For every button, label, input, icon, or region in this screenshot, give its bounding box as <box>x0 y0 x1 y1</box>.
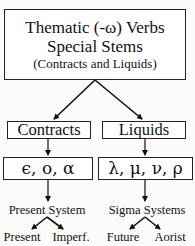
arrow-to-imperf <box>47 217 63 229</box>
root-note: (Contracts and Liquids) <box>33 56 156 72</box>
present-system-label: Present System <box>9 204 86 217</box>
imperfect-tense-label: Imperf. <box>52 231 89 244</box>
arrow-to-future <box>130 217 145 229</box>
arrow-to-present <box>32 217 47 229</box>
arrow-to-aorist <box>145 217 160 229</box>
arrow-root-to-liquids <box>95 80 142 119</box>
future-tense-label: Future <box>107 231 140 244</box>
root-node-box: Thematic (-ω) Verbs Special Stems (Contr… <box>4 9 186 80</box>
root-subtitle: Special Stems <box>47 37 143 56</box>
contracts-node: Contracts <box>7 121 91 139</box>
aorist-tense-label: Aorist <box>154 231 185 244</box>
liquid-consonants-node: λ, μ, ν, ρ <box>98 157 193 180</box>
liquids-node: Liquids <box>102 121 186 139</box>
contracts-label: Contracts <box>17 122 80 139</box>
arrow-root-to-contracts <box>54 80 95 119</box>
liquids-label: Liquids <box>119 122 169 139</box>
present-tense-label: Present <box>4 231 41 244</box>
contract-vowels-node: ϵ, ο, α <box>3 157 93 180</box>
sigma-systems-label: Sigma Systems <box>109 204 186 217</box>
liquid-consonants-label: λ, μ, ν, ρ <box>108 160 183 177</box>
contract-vowels-label: ϵ, ο, α <box>22 160 75 177</box>
root-title: Thematic (-ω) Verbs <box>25 18 164 37</box>
